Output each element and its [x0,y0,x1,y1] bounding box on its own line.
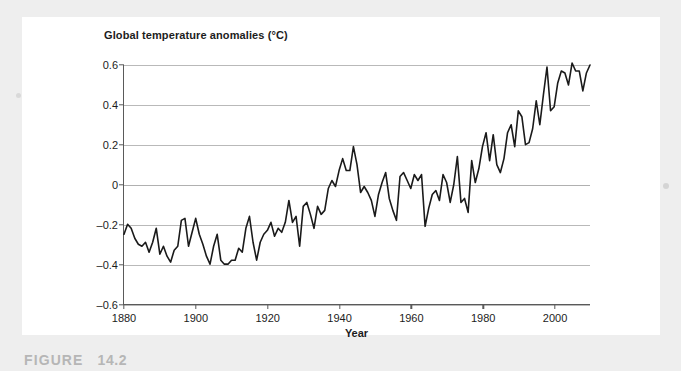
y-tick-label: 0.2 [103,139,118,151]
x-tick-label: 1920 [255,312,279,324]
x-axis-label: Year [123,327,590,339]
chart-title: Global temperature anomalies (°C) [104,29,288,41]
y-tick-label: 0.6 [103,59,118,71]
x-tick-label: 2000 [543,312,567,324]
scan-speckle-left [16,93,21,98]
x-tick-mark [483,304,484,309]
x-tick-label: 1940 [327,312,351,324]
x-tick-label: 1960 [399,312,423,324]
x-tick-mark [195,304,196,309]
temperature-anomaly-chart [124,65,590,304]
figure-card: Global temperature anomalies (°C) 0.60.4… [22,17,660,335]
figure-caption: FIGURE14.2 [24,352,127,368]
x-tick-mark [267,304,268,309]
plot-area: 0.60.40.20–0.2–0.4–0.6188019001920194019… [123,65,590,305]
x-tick-label: 1900 [184,312,208,324]
figure-caption-number: 14.2 [98,352,128,368]
x-tick-label: 1880 [112,312,136,324]
x-tick-mark [554,304,555,309]
x-tick-mark [411,304,412,309]
y-tick-label: –0.4 [97,259,118,271]
x-tick-mark [123,304,124,309]
scan-speckle-right [663,183,669,189]
y-tick-label: 0.4 [103,99,118,111]
y-tick-label: –0.2 [97,219,118,231]
y-tick-label: –0.6 [97,299,118,311]
figure-caption-label: FIGURE [24,352,84,368]
x-tick-label: 1980 [471,312,495,324]
temperature-anomaly-line [124,63,590,264]
y-tick-label: 0 [112,179,118,191]
x-tick-mark [339,304,340,309]
gridline-y-–0.6 [124,305,590,306]
